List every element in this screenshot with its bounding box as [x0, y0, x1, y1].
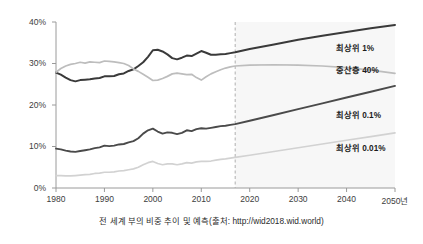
x-axis-label: 2020 [228, 194, 272, 204]
x-axis-label: 2030 [276, 194, 320, 204]
x-axis-label: 1980 [34, 194, 78, 204]
series-label-3: 최상위 0.1% [336, 108, 381, 120]
y-axis-label: 20% [10, 100, 46, 110]
x-axis-label: 2000 [131, 194, 175, 204]
series-label-4: 최상위 0.01% [336, 141, 386, 153]
y-axis-label: 30% [10, 58, 46, 68]
series-label-2: 중산층 40% [336, 63, 379, 75]
chart-container: 0%10%20%30%40%19801990200020102020203020… [0, 0, 423, 244]
y-axis-label: 0% [10, 183, 46, 193]
series-label-1: 최상위 1% [336, 41, 374, 53]
wealth-share-line-chart [0, 0, 423, 244]
x-axis-label: 2050년 [373, 194, 417, 206]
y-axis-label: 40% [10, 17, 46, 27]
x-axis-label: 1990 [82, 194, 126, 204]
y-axis-label: 10% [10, 141, 46, 151]
chart-caption: 전 세계 부의 비중 추이 및 예측(출처: http://wid2018.wi… [0, 214, 423, 226]
x-axis-label: 2040 [325, 194, 369, 204]
x-axis-label: 2010 [179, 194, 223, 204]
